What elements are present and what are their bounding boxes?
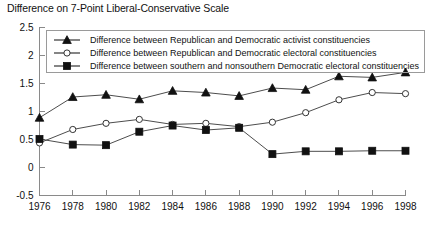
series-2-point-10 — [369, 147, 376, 154]
series-1-point-1 — [70, 126, 76, 132]
legend-item-1[interactable]: Difference between Republican and Democr… — [54, 48, 377, 58]
legend-marker-1 — [64, 50, 70, 56]
legend-label-0: Difference between Republican and Democr… — [90, 35, 370, 45]
series-1-point-11 — [402, 91, 408, 97]
series-2 — [36, 122, 409, 158]
series-1-point-2 — [103, 120, 109, 126]
legend-marker-2 — [64, 63, 71, 70]
series-2-point-6 — [236, 124, 243, 131]
x-tick-label-8: 1992 — [295, 201, 318, 212]
series-1-point-10 — [369, 89, 375, 95]
series-1-point-9 — [336, 97, 342, 103]
series-1 — [36, 89, 408, 146]
series-2-point-7 — [269, 151, 276, 158]
series-line-1 — [40, 93, 406, 143]
line-chart-plot: 2.521.510.50-0.5 19761978198019821984198… — [0, 0, 429, 232]
y-tick-label-4: 0.5 — [20, 134, 34, 145]
y-tick-label-1: 2 — [28, 50, 34, 61]
series-1-point-5 — [203, 120, 209, 126]
series-1-point-3 — [136, 116, 142, 122]
series-2-point-2 — [103, 142, 110, 149]
y-axis-tick-labels: 2.521.510.50-0.5 — [16, 22, 34, 201]
x-tick-label-1: 1978 — [62, 201, 85, 212]
chart-container: Difference on 7-Point Liberal-Conservati… — [0, 0, 429, 232]
legend-label-2: Difference between southern and nonsouth… — [90, 61, 420, 71]
series-2-point-11 — [402, 147, 409, 154]
y-tick-label-3: 1 — [28, 106, 34, 117]
y-tick-label-0: 2.5 — [20, 22, 34, 33]
series-1-point-7 — [269, 119, 275, 125]
y-tick-label-6: -0.5 — [16, 190, 34, 201]
series-0-point-7 — [268, 84, 277, 92]
series-2-point-9 — [335, 148, 342, 155]
x-tick-label-2: 1980 — [95, 201, 118, 212]
x-tick-label-9: 1994 — [328, 201, 351, 212]
x-tick-label-5: 1986 — [195, 201, 218, 212]
series-2-point-1 — [69, 141, 76, 148]
x-tick-label-4: 1984 — [161, 201, 184, 212]
series-0-point-4 — [168, 87, 177, 95]
legend-label-1: Difference between Republican and Democr… — [90, 48, 377, 58]
x-tick-label-11: 1998 — [394, 201, 417, 212]
legend-item-0[interactable]: Difference between Republican and Democr… — [54, 35, 370, 45]
x-axis-tick-labels: 1976197819801982198419861988199019921994… — [28, 201, 417, 212]
series-2-point-3 — [136, 128, 143, 135]
x-tick-label-10: 1996 — [361, 201, 384, 212]
series-2-point-8 — [302, 148, 309, 155]
y-tick-label-5: 0 — [28, 162, 34, 173]
x-tick-label-7: 1990 — [261, 201, 284, 212]
chart-legend: Difference between Republican and Democr… — [46, 30, 424, 72]
x-tick-label-6: 1988 — [228, 201, 251, 212]
series-line-2 — [40, 126, 406, 155]
series-1-point-8 — [303, 110, 309, 116]
legend-item-2[interactable]: Difference between southern and nonsouth… — [54, 61, 420, 71]
series-0 — [35, 68, 410, 121]
x-tick-label-3: 1982 — [128, 201, 151, 212]
series-0-point-2 — [102, 90, 111, 98]
series-2-point-5 — [202, 127, 209, 134]
data-series-group — [35, 68, 410, 158]
series-0-point-0 — [35, 113, 44, 121]
series-2-point-4 — [169, 122, 176, 129]
series-line-0 — [40, 72, 406, 117]
x-tick-label-0: 1976 — [28, 201, 51, 212]
series-2-point-0 — [36, 136, 43, 143]
y-tick-label-2: 1.5 — [20, 78, 34, 89]
